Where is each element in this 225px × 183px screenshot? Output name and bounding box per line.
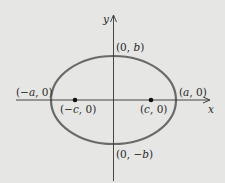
focus-right-label: (c, 0)	[140, 103, 167, 115]
co-vertex-top-label: (0, b)	[116, 41, 144, 53]
focus-left-label: (−c, 0)	[60, 103, 96, 115]
vertex-left-label: (−a, 0)	[16, 86, 53, 98]
y-axis-label: y	[102, 13, 110, 25]
co-vertex-bottom-label: (0, −b)	[116, 148, 153, 160]
ellipse-diagram: x y (0, b) (0, −b) (a, 0) (−a, 0) (c, 0)…	[0, 0, 225, 183]
focus-point-left	[73, 98, 78, 103]
vertex-right-label: (a, 0)	[179, 86, 207, 98]
x-axis-label: x	[208, 103, 214, 115]
focus-point-right	[149, 98, 154, 103]
